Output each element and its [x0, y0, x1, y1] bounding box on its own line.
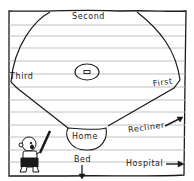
- label-bed: Bed: [74, 156, 91, 164]
- label-hospital: Hospital: [126, 160, 163, 168]
- label-third: Third: [10, 73, 33, 81]
- baseball-field-diagram: [0, 0, 194, 181]
- label-home: Home: [72, 133, 98, 141]
- label-second: Second: [72, 13, 105, 21]
